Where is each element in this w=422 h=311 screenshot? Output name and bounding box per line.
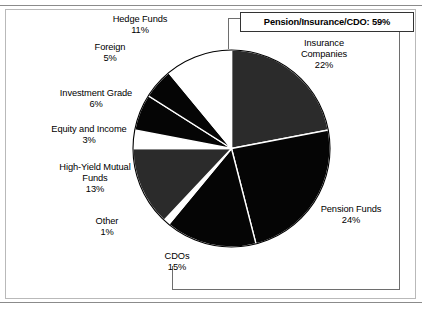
callout-label: Pension/Insurance/CDO: 59% <box>264 17 390 27</box>
callout-leader-right-vertical <box>399 32 400 290</box>
slice-label-insurance-companies: Insurance Companies 22% <box>272 38 376 72</box>
callout-leader-top-vertical <box>228 18 229 49</box>
bottom-horizontal-rule <box>0 302 422 303</box>
slice-label-equity-and-income: Equity and Income 3% <box>16 124 162 146</box>
callout-box: Pension/Insurance/CDO: 59% <box>240 12 414 32</box>
slice-label-pension-funds: Pension Funds 24% <box>298 204 404 226</box>
slice-label-high-yield-mutual-funds: High-Yield Mutual Funds 13% <box>28 162 162 196</box>
slice-label-hedge-funds: Hedge Funds 11% <box>88 14 192 36</box>
slice-label-investment-grade: Investment Grade 6% <box>30 88 162 110</box>
slice-label-cdos: CDOs 15% <box>148 251 206 273</box>
top-horizontal-rule <box>0 5 422 6</box>
callout-leader-bottom-horizontal <box>172 289 400 290</box>
pie-chart-figure: Hedge Funds 11% Foreign 5% Investment Gr… <box>0 0 422 311</box>
slice-label-other: Other 1% <box>78 216 136 238</box>
slice-label-foreign: Foreign 5% <box>58 42 162 64</box>
